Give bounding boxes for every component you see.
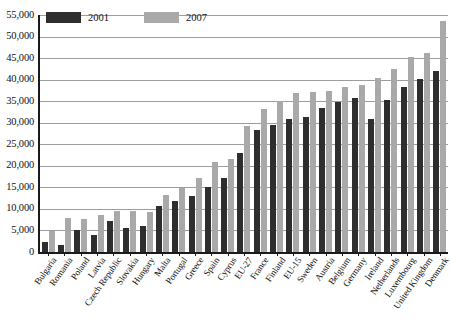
bar-group xyxy=(203,15,219,252)
bar-2001 xyxy=(286,119,292,252)
legend-entry-2007: 2007 xyxy=(144,12,242,23)
bar-group xyxy=(138,15,154,252)
bar-2007 xyxy=(293,93,299,252)
bar-group xyxy=(301,15,317,252)
y-tick-label: 30,000 xyxy=(6,117,34,128)
bar-2001 xyxy=(237,153,243,252)
bar-2007 xyxy=(130,211,136,252)
bar-2001 xyxy=(319,108,325,252)
bar-2001 xyxy=(433,71,439,252)
bar-2007 xyxy=(375,78,381,252)
y-tick-label: 0 xyxy=(29,247,34,258)
bar-2007 xyxy=(147,212,153,252)
bar-2001 xyxy=(189,196,195,252)
y-tick-label: 25,000 xyxy=(6,139,34,150)
y-tick-label: 35,000 xyxy=(6,96,34,107)
bar-2007 xyxy=(49,231,55,252)
bar-2001 xyxy=(335,102,341,252)
bar-2007 xyxy=(196,178,202,252)
chart-legend: 2001 2007 xyxy=(46,9,242,25)
bar-2001 xyxy=(156,206,162,252)
y-tick-label: 45,000 xyxy=(6,53,34,64)
bar-group xyxy=(350,15,366,252)
bar-2007 xyxy=(424,53,430,252)
bar-2001 xyxy=(401,87,407,252)
bar-group xyxy=(73,15,89,252)
y-tick-label: 10,000 xyxy=(6,203,34,214)
bar-2001 xyxy=(270,125,276,252)
bar-group xyxy=(268,15,284,252)
plot-area xyxy=(38,15,448,254)
bar-2007 xyxy=(179,188,185,252)
bar-group xyxy=(285,15,301,252)
bar-2007 xyxy=(261,109,267,252)
bar-group xyxy=(236,15,252,252)
bar-group xyxy=(187,15,203,252)
bar-2001 xyxy=(205,187,211,252)
bar-group xyxy=(122,15,138,252)
bar-2001 xyxy=(74,230,80,252)
bar-2007 xyxy=(359,85,365,252)
bar-2007 xyxy=(277,101,283,252)
bars-layer xyxy=(40,15,448,252)
bar-2001 xyxy=(91,235,97,252)
bar-2007 xyxy=(65,218,71,252)
bar-2001 xyxy=(140,226,146,252)
bar-2007 xyxy=(391,69,397,252)
bar-2007 xyxy=(98,215,104,252)
bar-2001 xyxy=(254,130,260,252)
legend-label-2001: 2001 xyxy=(88,12,109,23)
bar-2001 xyxy=(352,98,358,252)
bar-group xyxy=(366,15,382,252)
bar-2001 xyxy=(303,117,309,252)
bar-2001 xyxy=(58,245,64,252)
bar-2001 xyxy=(417,79,423,252)
bar-group xyxy=(334,15,350,252)
y-tick-label: 20,000 xyxy=(6,160,34,171)
bar-group xyxy=(171,15,187,252)
bar-group xyxy=(317,15,333,252)
bar-2007 xyxy=(81,219,87,252)
bar-2007 xyxy=(114,211,120,252)
bar-group xyxy=(154,15,170,252)
bar-group xyxy=(220,15,236,252)
y-tick-label: 5,000 xyxy=(11,225,34,236)
bar-2007 xyxy=(244,126,250,252)
bar-2001 xyxy=(172,201,178,252)
bar-2001 xyxy=(123,228,129,252)
bar-2007 xyxy=(342,87,348,252)
bar-2007 xyxy=(310,92,316,252)
y-tick-label: 40,000 xyxy=(6,74,34,85)
bar-group xyxy=(399,15,415,252)
bar-2007 xyxy=(163,195,169,252)
bar-group xyxy=(252,15,268,252)
bar-2001 xyxy=(368,119,374,252)
bar-group xyxy=(105,15,121,252)
bar-group xyxy=(383,15,399,252)
legend-swatch-2007 xyxy=(144,12,179,23)
x-axis: BulgariaRomaniaPolandLatviaCzech Republi… xyxy=(38,256,448,332)
bar-2001 xyxy=(384,100,390,252)
bar-2007 xyxy=(228,159,234,252)
y-tick-label: 15,000 xyxy=(6,182,34,193)
y-tick-label: 55,000 xyxy=(6,10,34,21)
y-tick-label: 50,000 xyxy=(6,31,34,42)
bar-2001 xyxy=(42,242,48,252)
bar-group xyxy=(89,15,105,252)
legend-entry-2001: 2001 xyxy=(46,12,144,23)
y-axis: 05,00010,00015,00020,00025,00030,00035,0… xyxy=(0,0,37,332)
bar-group xyxy=(415,15,431,252)
bar-2007 xyxy=(326,91,332,252)
bar-2007 xyxy=(212,162,218,252)
bar-2001 xyxy=(221,178,227,252)
bar-group xyxy=(56,15,72,252)
bar-2007 xyxy=(408,57,414,252)
bar-2007 xyxy=(440,21,446,252)
bar-group xyxy=(432,15,448,252)
bar-group xyxy=(40,15,56,252)
legend-swatch-2001 xyxy=(46,12,81,23)
legend-label-2007: 2007 xyxy=(186,12,207,23)
bar-2001 xyxy=(107,221,113,252)
